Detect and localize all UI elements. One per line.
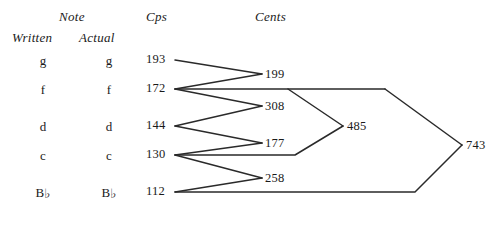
header-actual: Actual xyxy=(79,31,115,44)
edge-144-177 xyxy=(175,126,262,143)
cents-value-177: 177 xyxy=(265,137,284,150)
actual-note-4-letter: c xyxy=(106,148,112,163)
actual-note-3-letter: d xyxy=(106,119,113,134)
written-note-5-letter: B xyxy=(36,185,45,200)
written-note-1: g xyxy=(31,54,55,68)
cps-value-2: 172 xyxy=(146,82,165,95)
edge-144-308 xyxy=(175,106,262,126)
actual-note-4: c xyxy=(97,149,121,163)
written-note-2: f xyxy=(31,83,55,97)
written-note-2-letter: f xyxy=(41,82,45,97)
edge-172-308 xyxy=(175,89,262,106)
figure-canvas: Note Written Actual Cps Cents g g 193 f … xyxy=(0,0,503,225)
actual-note-2-letter: f xyxy=(107,82,111,97)
actual-note-1-letter: g xyxy=(106,53,113,68)
actual-note-5: B♭ xyxy=(94,186,124,200)
edge-193-199 xyxy=(175,60,262,74)
header-note-group: Note xyxy=(59,10,85,23)
header-cents: Cents xyxy=(255,10,286,23)
cps-value-5: 112 xyxy=(146,185,165,198)
written-note-5: B♭ xyxy=(28,186,58,200)
cps-value-1: 193 xyxy=(146,53,165,66)
edge-130-485 xyxy=(175,126,343,155)
written-note-1-letter: g xyxy=(40,53,47,68)
written-note-4-letter: c xyxy=(40,148,46,163)
connector-lines xyxy=(0,0,503,225)
edge-172-485 xyxy=(288,89,343,126)
written-note-3: d xyxy=(31,120,55,134)
cents-value-308: 308 xyxy=(265,100,284,113)
edge-130-258 xyxy=(175,155,262,178)
actual-note-1: g xyxy=(97,54,121,68)
edge-172-199 xyxy=(175,74,262,89)
cps-value-4: 130 xyxy=(146,148,165,161)
cents-value-485: 485 xyxy=(347,120,366,133)
edge-130-177 xyxy=(175,143,262,155)
edge-112-743 xyxy=(175,145,462,192)
cps-value-3: 144 xyxy=(146,119,165,132)
actual-note-3: d xyxy=(97,120,121,134)
actual-note-2: f xyxy=(97,83,121,97)
written-note-5-flat: ♭ xyxy=(44,186,50,201)
actual-note-5-flat: ♭ xyxy=(110,186,116,201)
header-cps: Cps xyxy=(146,10,167,23)
written-note-4: c xyxy=(31,149,55,163)
edge-112-258 xyxy=(175,178,262,192)
actual-note-5-letter: B xyxy=(102,185,111,200)
cents-value-258: 258 xyxy=(265,172,284,185)
cents-value-743: 743 xyxy=(466,139,485,152)
cents-value-199: 199 xyxy=(265,68,284,81)
written-note-3-letter: d xyxy=(40,119,47,134)
edge-top-743 xyxy=(385,89,462,145)
header-written: Written xyxy=(12,31,52,44)
